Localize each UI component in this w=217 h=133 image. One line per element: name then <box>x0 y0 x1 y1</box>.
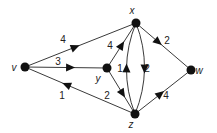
arrowhead-icon <box>117 88 129 100</box>
edge-weight-z-w: 4 <box>163 90 169 101</box>
node-v <box>21 63 30 72</box>
arrowhead-icon <box>70 42 81 53</box>
node-y <box>103 64 112 73</box>
edge-weight-y-x: 4 <box>107 40 113 51</box>
edge-weight-v-y: 3 <box>55 56 61 67</box>
node-label-w: w <box>195 65 203 76</box>
node-x <box>132 19 141 28</box>
nodes-layer <box>21 19 196 119</box>
edge-weight-y-z: 2 <box>104 90 110 101</box>
arrowhead-icon <box>66 64 75 72</box>
node-w <box>187 66 196 75</box>
edge-v-y <box>25 67 107 68</box>
edge-weight-z-v: 1 <box>59 90 65 101</box>
directed-graph-diagram: 431421224vxyzw <box>0 0 217 133</box>
edge-weight-v-x: 4 <box>60 34 66 45</box>
edge-z-v <box>25 67 135 114</box>
edge-weight-x-w: 2 <box>164 35 170 46</box>
arrowhead-icon <box>116 39 128 51</box>
node-label-y: y <box>95 73 102 84</box>
node-label-x: x <box>129 5 136 16</box>
arrowhead-icon <box>122 63 130 72</box>
node-z <box>131 110 140 119</box>
edge-weight-x-z: 1 <box>117 63 123 74</box>
edge-weight-z-x: 2 <box>144 63 150 74</box>
node-label-z: z <box>128 119 134 130</box>
node-label-v: v <box>12 62 18 73</box>
arrowhead-icon <box>61 79 72 90</box>
